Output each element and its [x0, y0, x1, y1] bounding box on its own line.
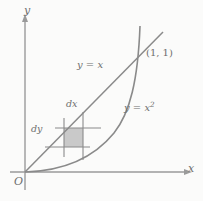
- calculus-figure: y x O y = x y = x2 dx dy (1, 1): [0, 0, 203, 201]
- parabola-equation-exponent: 2: [150, 100, 155, 109]
- origin-label: O: [14, 176, 23, 187]
- x-axis-label: x: [188, 163, 194, 174]
- parabola-equation-base: y = x: [124, 102, 150, 113]
- y-axis-label: y: [24, 5, 30, 16]
- dy-label: dy: [31, 124, 42, 134]
- line-equation-label: y = x: [77, 60, 103, 70]
- differential-element-fill: [64, 128, 83, 147]
- parabola-equation-label: y = x2: [124, 101, 155, 113]
- intersection-point-label: (1, 1): [146, 48, 173, 58]
- dx-label: dx: [66, 99, 77, 109]
- figure-canvas: [0, 0, 203, 201]
